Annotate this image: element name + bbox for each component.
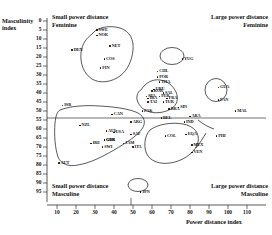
cluster-outline-guatemala-panama (205, 79, 227, 102)
cluster-outline-latin-america (145, 123, 199, 163)
cluster-outline-yugoslavia (160, 48, 184, 65)
y-tick-marks (43, 21, 47, 192)
cluster-connector-philippines (196, 133, 206, 148)
x-tick-marks (57, 205, 247, 209)
scatter-plot-canvas (0, 0, 272, 235)
cluster-outline-japan (128, 179, 148, 192)
cluster-connector-malaysia (198, 120, 214, 129)
cluster-outline-latin-asian (137, 80, 178, 113)
cluster-outline-anglo (55, 106, 145, 166)
cluster-outline-nordic (81, 27, 133, 82)
